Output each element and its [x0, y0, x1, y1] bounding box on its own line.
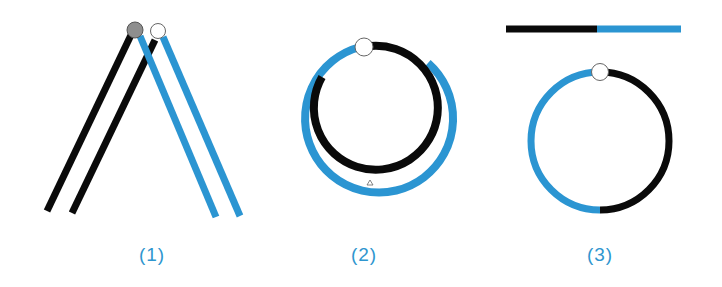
figure-1-label: (1) — [139, 244, 165, 266]
circle-black-right-half — [600, 72, 669, 210]
figure-3-label: (3) — [587, 244, 613, 266]
figure-2-label: (2) — [351, 244, 377, 266]
small-triangle-marker — [367, 180, 373, 185]
circle-blue-left-half — [531, 72, 600, 210]
figure-2 — [305, 38, 453, 193]
grey-dot — [127, 22, 143, 38]
figure-1 — [47, 22, 240, 217]
figure-3 — [506, 29, 681, 210]
white-dot — [151, 24, 166, 39]
white-dot — [592, 64, 609, 81]
white-dot — [355, 38, 373, 56]
